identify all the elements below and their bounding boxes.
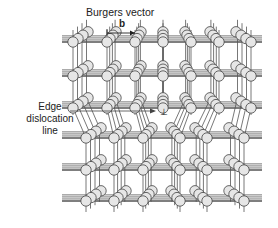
edge-label-line-1: Edge xyxy=(20,101,80,113)
atom xyxy=(109,133,119,143)
atom xyxy=(214,103,224,113)
edge-dislocation-line-label: Edge dislocation line xyxy=(20,101,80,137)
atom xyxy=(202,133,212,143)
atom xyxy=(130,103,140,113)
atom xyxy=(81,165,91,175)
atom xyxy=(109,165,119,175)
atom xyxy=(138,165,148,175)
atom xyxy=(81,196,91,206)
burgers-vector-symbol: b xyxy=(119,18,125,30)
atom xyxy=(202,196,212,206)
atom xyxy=(239,165,249,175)
atom xyxy=(186,37,196,47)
atom xyxy=(186,71,196,81)
atom xyxy=(246,71,256,81)
atom xyxy=(175,133,185,143)
edge-label-line-2: dislocation xyxy=(20,113,80,125)
atom xyxy=(239,196,249,206)
atom xyxy=(239,133,249,143)
atom xyxy=(158,71,168,81)
atom xyxy=(246,103,256,113)
atom xyxy=(246,37,256,47)
atom xyxy=(102,103,112,113)
edge-label-arrowhead xyxy=(150,109,156,114)
atom xyxy=(202,165,212,175)
atom xyxy=(175,196,185,206)
atom xyxy=(214,71,224,81)
edge-dislocation-diagram: ⊥ Burgers vector b Edge dislocation line xyxy=(0,0,278,228)
atom xyxy=(68,37,78,47)
atom xyxy=(175,165,185,175)
atom xyxy=(130,71,140,81)
atom xyxy=(138,133,148,143)
dislocation-symbol: ⊥ xyxy=(160,107,168,117)
atom xyxy=(214,37,224,47)
atom xyxy=(186,103,196,113)
atom xyxy=(81,133,91,143)
atom xyxy=(102,37,112,47)
burgers-vector-title: Burgers vector xyxy=(86,6,154,18)
atom xyxy=(158,37,168,47)
atom xyxy=(109,196,119,206)
atom xyxy=(138,196,148,206)
atom xyxy=(102,71,112,81)
atom xyxy=(130,37,140,47)
atom xyxy=(68,71,78,81)
edge-label-line-3: line xyxy=(20,125,80,137)
